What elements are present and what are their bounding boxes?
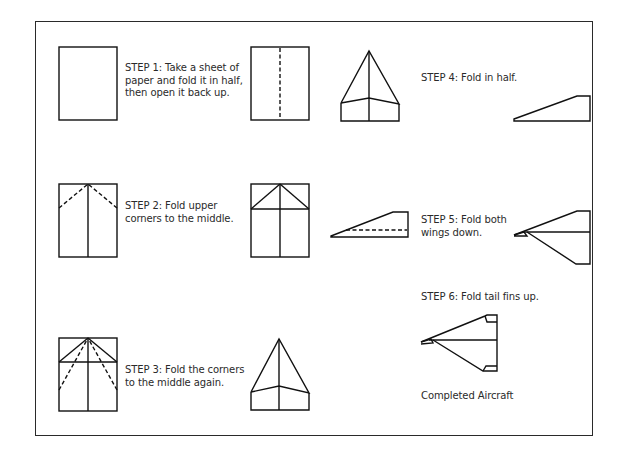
- dart-shape-top-figure: [341, 51, 399, 121]
- completed-aircraft-label: Completed Aircraft: [421, 390, 513, 403]
- wings-down-figure: [514, 211, 590, 264]
- step-3-line-2: to the middle again.: [125, 377, 244, 390]
- step-3-text: STEP 3: Fold the corners to the middle a…: [125, 364, 244, 389]
- step-1-text: STEP 1: Take a sheet of paper and fold i…: [125, 62, 243, 100]
- step-1-line-2: paper and fold it in half,: [125, 75, 243, 88]
- sheet-plain-figure: [59, 47, 117, 120]
- folding-illustrations: [0, 0, 641, 461]
- step-5-line-2: wings down.: [421, 227, 507, 240]
- sheet-second-fold-guides-figure: [59, 338, 117, 411]
- folded-half-figure: [514, 96, 590, 121]
- sheet-corners-folded-figure: [251, 184, 309, 257]
- step-1-line-1: STEP 1: Take a sheet of: [125, 62, 243, 75]
- step-4-line-1: STEP 4: Fold in half.: [421, 72, 517, 85]
- dart-shape-figure: [251, 339, 309, 410]
- step-2-text: STEP 2: Fold upper corners to the middle…: [125, 200, 233, 225]
- completed-aircraft-text: Completed Aircraft: [421, 390, 513, 403]
- step-5-text: STEP 5: Fold both wings down.: [421, 214, 507, 239]
- step-6-text: STEP 6: Fold tail fins up.: [421, 291, 539, 304]
- step-2-line-1: STEP 2: Fold upper: [125, 200, 233, 213]
- step-5-line-1: STEP 5: Fold both: [421, 214, 507, 227]
- step-4-text: STEP 4: Fold in half.: [421, 72, 517, 85]
- step-6-line-1: STEP 6: Fold tail fins up.: [421, 291, 539, 304]
- step-3-line-1: STEP 3: Fold the corners: [125, 364, 244, 377]
- step-2-line-2: corners to the middle.: [125, 213, 233, 226]
- sheet-center-fold-figure: [251, 47, 309, 120]
- sheet-corner-fold-guides-figure: [59, 184, 117, 257]
- folded-wing-guide-figure: [331, 212, 408, 237]
- completed-aircraft-figure: [421, 315, 497, 371]
- step-1-line-3: then open it back up.: [125, 87, 243, 100]
